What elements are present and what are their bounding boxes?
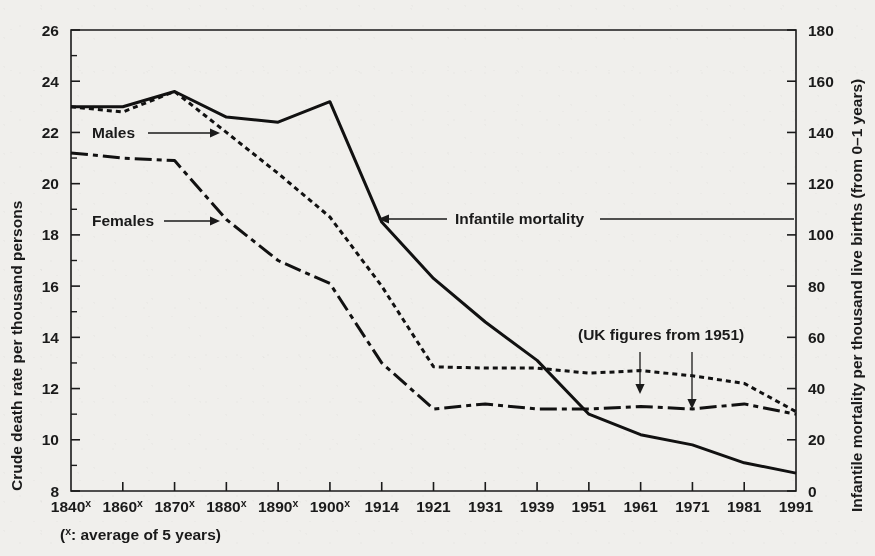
series-line-males: [71, 92, 796, 412]
x-axis-tick-label: 1840x: [51, 497, 91, 515]
females-callout-arrowhead: [210, 216, 220, 225]
mortality-line-chart: 8101214161820222426 02040608010012014016…: [0, 0, 875, 556]
right-axis-tick-label: 100: [808, 226, 834, 243]
x-axis-tick-label: 1900x: [310, 497, 350, 515]
left-axis-tick-labels: 8101214161820222426: [42, 22, 60, 500]
left-axis-tick-label: 22: [42, 124, 59, 141]
right-axis-tick-label: 60: [808, 329, 825, 346]
x-tick-superscript: x: [241, 497, 247, 509]
right-axis-tick-labels: 020406080100120140160180: [808, 22, 834, 500]
left-axis-tick-label: 24: [42, 73, 60, 90]
right-axis-tick-label: 160: [808, 73, 834, 90]
right-axis-tick-label: 20: [808, 431, 825, 448]
x-axis-tick-label: 1981: [727, 498, 762, 515]
footnote-rest: : average of 5 years): [71, 526, 221, 543]
x-tick-year: 1870: [154, 498, 188, 515]
right-axis-tick-label: 0: [808, 483, 817, 500]
x-axis-tick-label: 1951: [572, 498, 607, 515]
x-tick-superscript: x: [189, 497, 195, 509]
left-axis-tick-label: 14: [42, 329, 60, 346]
right-axis-tick-label: 120: [808, 175, 834, 192]
left-axis-tick-label: 20: [42, 175, 59, 192]
x-axis-tick-label: 1921: [416, 498, 451, 515]
x-tick-year: 1840: [51, 498, 85, 515]
x-axis-tick-label: 1890x: [258, 497, 298, 515]
left-axis-tick-label: 8: [50, 483, 59, 500]
x-tick-superscript: x: [85, 497, 91, 509]
x-tick-year: 1971: [675, 498, 710, 515]
x-axis-tick-label: 1971: [675, 498, 710, 515]
x-tick-year: 1900: [310, 498, 344, 515]
uk-note-females-arrowhead: [687, 399, 696, 409]
plot-border: [71, 30, 796, 491]
x-tick-year: 1991: [779, 498, 814, 515]
series-line-infantile-mortality: [71, 92, 796, 474]
left-axis-tick-label: 12: [42, 380, 59, 397]
right-axis-title: Infantile mortality per thousand live bi…: [848, 79, 865, 512]
series-label-females: Females: [92, 212, 154, 229]
x-tick-year: 1939: [520, 498, 555, 515]
x-axis-tick-label: 1914: [364, 498, 399, 515]
right-axis-tick-label: 80: [808, 278, 825, 295]
right-axis-tick-label: 180: [808, 22, 834, 39]
series-label-infantile-mortality: Infantile mortality: [455, 210, 585, 227]
x-axis-tick-label: 1880x: [206, 497, 246, 515]
left-axis-tick-label: 26: [42, 22, 60, 39]
x-tick-superscript: x: [137, 497, 143, 509]
x-tick-year: 1890: [258, 498, 292, 515]
left-axis-tick-label: 16: [42, 278, 60, 295]
x-tick-year: 1914: [364, 498, 399, 515]
right-axis-tick-label: 140: [808, 124, 834, 141]
x-axis-tick-label: 1961: [623, 498, 658, 515]
left-axis-tick-label: 10: [42, 431, 59, 448]
x-axis-tick-label: 1860x: [103, 497, 143, 515]
uk-note-males-arrowhead: [635, 384, 644, 394]
series-line-females: [71, 153, 796, 414]
x-tick-year: 1880: [206, 498, 240, 515]
x-tick-year: 1860: [103, 498, 137, 515]
figure-canvas: 8101214161820222426 02040608010012014016…: [0, 0, 875, 556]
x-tick-year: 1951: [572, 498, 607, 515]
footnote-average-of-5-years: (x: average of 5 years): [60, 525, 221, 543]
x-axis-tick-label: 1991: [779, 498, 814, 515]
series-label-males: Males: [92, 124, 135, 141]
right-axis-tick-label: 40: [808, 380, 825, 397]
x-axis-tick-label: 1939: [520, 498, 555, 515]
x-tick-year: 1961: [623, 498, 658, 515]
left-axis-title: Crude death rate per thousand persons: [8, 201, 25, 491]
data-series-group: [71, 92, 796, 474]
x-tick-year: 1981: [727, 498, 762, 515]
x-axis-tick-label: 1931: [468, 498, 503, 515]
x-tick-superscript: x: [344, 497, 350, 509]
males-callout-arrowhead: [210, 128, 220, 137]
x-tick-superscript: x: [292, 497, 298, 509]
axis-tickmarks: [71, 30, 796, 491]
plot-frame: [71, 30, 796, 491]
x-axis-tick-labels: 1840x1860x1870x1880x1890x1900x1914192119…: [51, 497, 814, 515]
uk-figures-note: (UK figures from 1951): [578, 326, 744, 343]
x-axis-tick-label: 1870x: [154, 497, 194, 515]
x-tick-year: 1931: [468, 498, 503, 515]
left-axis-tick-label: 18: [42, 226, 60, 243]
x-tick-year: 1921: [416, 498, 451, 515]
